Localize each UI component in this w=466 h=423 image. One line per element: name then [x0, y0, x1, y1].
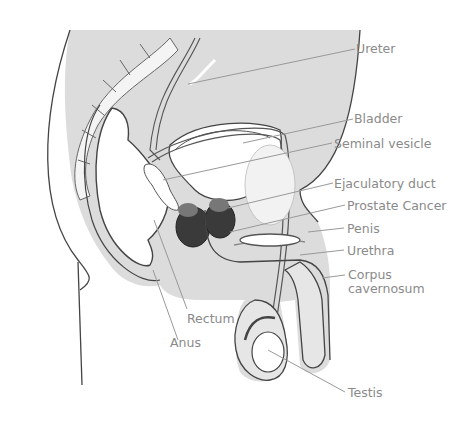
label-seminal-vesicle: Seminal vesicle [334, 137, 431, 150]
label-urethra: Urethra [347, 244, 394, 257]
label-ejaculatory-duct: Ejaculatory duct [334, 177, 436, 190]
label-ureter: Ureter [356, 42, 395, 55]
label-cavernosum: cavernosum [348, 282, 425, 295]
label-penis: Penis [347, 222, 380, 235]
label-testis: Testis [348, 386, 383, 399]
label-bladder: Bladder [354, 112, 402, 125]
label-corpus: Corpus [348, 268, 392, 281]
label-prostate-cancer: Prostate Cancer [347, 199, 446, 212]
label-anus: Anus [170, 336, 201, 349]
label-rectum: Rectum [187, 312, 235, 325]
